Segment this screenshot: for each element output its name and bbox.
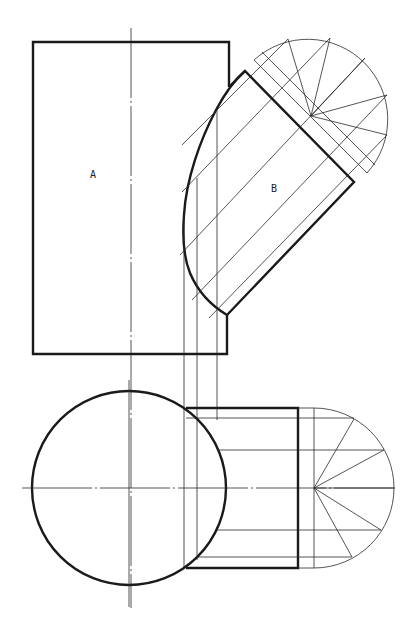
generator-lines-top [186,418,384,557]
technical-drawing: A B [0,0,419,617]
generator-lines-front [180,38,387,318]
front-view: A B [33,28,388,608]
label-a: A [90,169,96,180]
cylinder-b-end-edge [227,71,354,315]
aux-semicircle-front [254,39,388,173]
intersection-curve [183,71,245,315]
fan-spokes-front [288,38,387,135]
label-b: B [271,183,277,194]
top-view [22,380,395,607]
fan-spokes-top [314,419,394,557]
